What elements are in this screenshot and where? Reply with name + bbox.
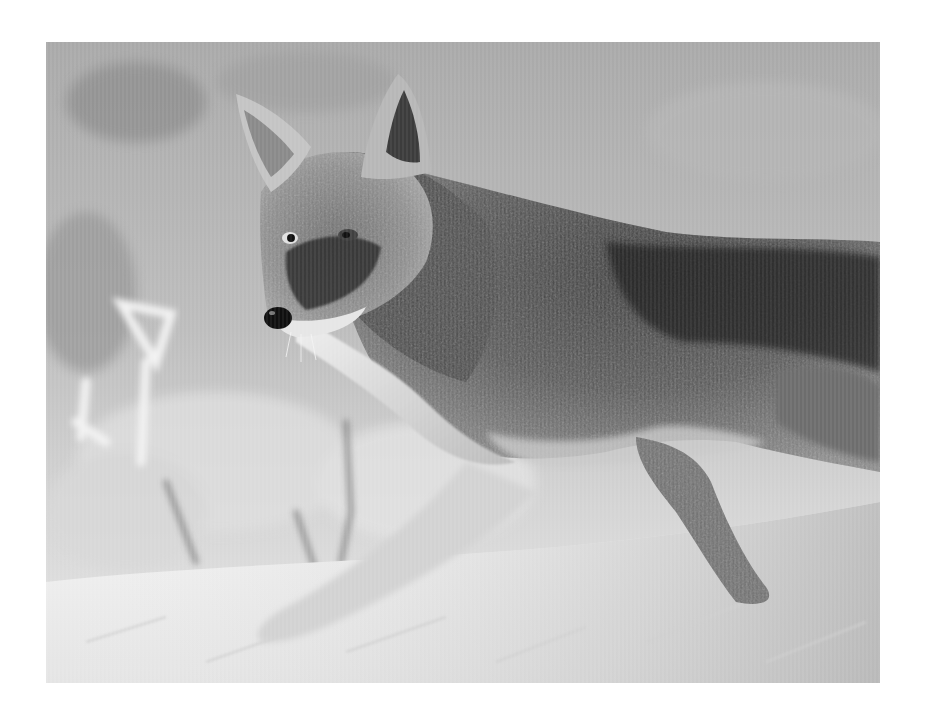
coyote-photo: A black and white photo of a coyote walk… (46, 42, 880, 683)
coyote-photo-illustration (46, 42, 880, 683)
